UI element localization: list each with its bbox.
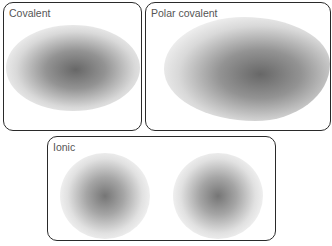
covalent-panel: Covalent: [3, 2, 142, 131]
electron-cloud-ion-right: [173, 153, 263, 239]
polar-covalent-label: Polar covalent: [151, 7, 218, 19]
ionic-panel: Ionic: [47, 136, 276, 241]
covalent-label: Covalent: [9, 7, 50, 19]
electron-cloud-polar: [164, 17, 330, 121]
polar-covalent-panel: Polar covalent: [145, 2, 331, 131]
ionic-label: Ionic: [53, 141, 75, 153]
electron-cloud-ion-left: [60, 153, 150, 239]
electron-cloud-shared: [6, 25, 140, 111]
